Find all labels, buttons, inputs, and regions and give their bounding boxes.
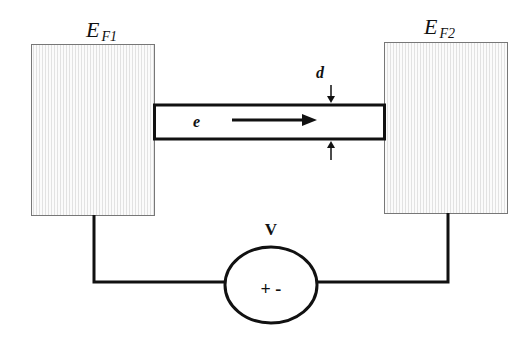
left-electrode-label: EF1 <box>85 17 117 44</box>
polarity-label: + - <box>261 279 282 299</box>
right-electrode <box>385 43 508 214</box>
left-wire <box>94 215 225 282</box>
thickness-label: d <box>316 64 325 81</box>
left-electrode <box>32 45 155 216</box>
channel <box>155 105 385 139</box>
right-wire <box>318 213 448 282</box>
thickness-arrow-top-icon <box>327 85 335 103</box>
carrier-label: e <box>193 113 200 130</box>
voltage-label: V <box>265 220 278 239</box>
thickness-arrow-bottom-icon <box>327 141 335 160</box>
right-electrode-label: EF2 <box>423 14 455 41</box>
junction-diagram: EF1 EF2 e d + - V <box>0 0 532 341</box>
